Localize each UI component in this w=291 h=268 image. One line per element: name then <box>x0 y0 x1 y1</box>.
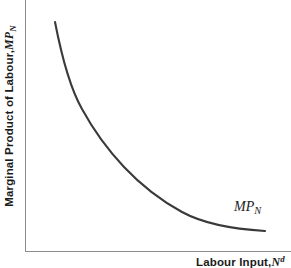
x-axis-title-variable: Nd <box>271 255 284 268</box>
chart-canvas <box>0 0 291 268</box>
mpn-curve-label: MPN <box>234 200 261 216</box>
marginal-product-of-labour-chart: Marginal Product of Labour,MPN Labour In… <box>0 0 291 268</box>
x-axis-title-superscript: d <box>280 254 285 264</box>
mpn-curve-label-subscript: N <box>254 205 261 216</box>
x-axis-title-text: Labour Input, <box>196 256 271 268</box>
mpn-curve-label-variable: MP <box>234 199 254 214</box>
x-axis-title: Labour Input,Nd <box>196 255 285 268</box>
